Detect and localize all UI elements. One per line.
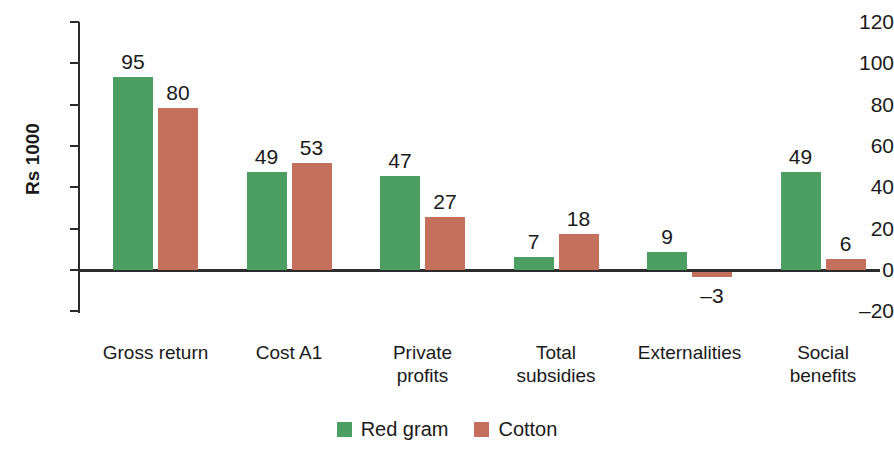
legend-item: Red gram: [337, 419, 449, 439]
bar-red-gram: [380, 176, 420, 270]
y-tick-mark: [70, 21, 79, 23]
bar-cotton: [692, 272, 732, 277]
bar-cotton: [425, 217, 465, 270]
x-axis-label: Socialbenefits: [743, 341, 894, 387]
y-tick-label: 80: [836, 94, 894, 115]
y-tick-mark: [70, 310, 79, 312]
bar-cotton: [559, 234, 599, 270]
y-tick-label: –20: [836, 300, 894, 321]
bar-value-label: 7: [502, 231, 566, 252]
bar-value-label: 80: [146, 82, 210, 103]
bar-value-label: 49: [769, 146, 833, 167]
y-tick-mark: [70, 186, 79, 188]
x-axis-zero-line: [78, 269, 880, 272]
y-tick-mark: [70, 145, 79, 147]
y-tick-mark: [70, 62, 79, 64]
y-tick-mark: [70, 269, 79, 271]
legend-label: Cotton: [498, 419, 557, 439]
bar-value-label: 9: [635, 226, 699, 247]
plot-area: Rs 1000 120100806040200–20 9580495347277…: [0, 0, 894, 330]
bar-value-label: 53: [280, 137, 344, 158]
y-tick-label: 120: [836, 11, 894, 32]
bar-red-gram: [647, 252, 687, 270]
y-tick-label: 40: [836, 176, 894, 197]
y-axis-title: Rs 1000: [22, 104, 44, 214]
bar-value-label: 18: [547, 208, 611, 229]
legend-swatch-icon: [337, 422, 352, 437]
bar-cotton: [292, 163, 332, 270]
y-tick-label: 60: [836, 135, 894, 156]
bar-value-label: 27: [413, 191, 477, 212]
bar-value-label: 6: [814, 233, 878, 254]
legend-label: Red gram: [361, 419, 449, 439]
y-tick-mark: [70, 228, 79, 230]
bar-value-label: 95: [101, 51, 165, 72]
y-tick-label: 100: [836, 52, 894, 73]
bar-chart: Rs 1000 120100806040200–20 9580495347277…: [0, 0, 894, 449]
y-tick-mark: [70, 104, 79, 106]
bar-value-label: 47: [368, 150, 432, 171]
bar-cotton: [826, 259, 866, 270]
bar-red-gram: [514, 257, 554, 270]
bar-red-gram: [781, 172, 821, 270]
bar-red-gram: [247, 172, 287, 270]
legend-swatch-icon: [474, 422, 489, 437]
bar-value-label: –3: [680, 285, 744, 306]
chart-legend: Red gramCotton: [0, 419, 894, 439]
legend-item: Cotton: [474, 419, 557, 439]
bar-cotton: [158, 108, 198, 270]
bar-red-gram: [113, 77, 153, 270]
